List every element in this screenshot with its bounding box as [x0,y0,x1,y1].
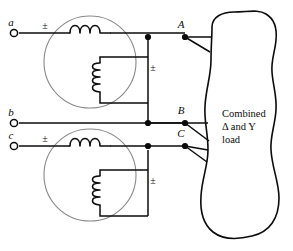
junction-dot-top-secondary-tap [145,34,151,40]
label-terminal-B: B [178,104,185,116]
label-terminal-b: b [8,106,14,118]
polarity-mark-secondary-top: ± [150,62,156,73]
top-primary-winding-icon [70,26,110,34]
circuit-diagram-canvas: a b c A B C ± ± ± ± Combined Δ and Y loa… [0,0,293,251]
polarity-mark-primary-bottom: ± [42,133,48,144]
circuit-figure: a b c A B C ± ± ± ± Combined Δ and Y loa… [0,0,293,251]
bottom-primary-winding-icon [70,139,110,147]
bottom-secondary-winding-icon [93,176,101,205]
terminal-b-node[interactable] [10,119,17,126]
label-terminal-a: a [8,16,14,28]
load-label-line-1: Combined [222,108,266,119]
polarity-mark-secondary-bottom: ± [150,175,156,186]
junction-dot-C [182,143,188,149]
wire-A-into-load-diagonal [185,37,210,52]
junction-dot-B-bus [145,120,151,126]
wire-top-secondary-loop [100,57,148,63]
load-label-line-2: Δ and Y [222,121,256,132]
junction-dot-B [182,120,188,126]
top-secondary-winding-icon [93,63,101,92]
junction-dot-A [182,34,188,40]
junction-dot-bottom-secondary-tap [145,143,151,149]
label-terminal-A: A [177,18,185,30]
terminal-a-node[interactable] [10,29,17,36]
label-terminal-C: C [177,127,185,139]
load-label-line-3: load [222,134,241,145]
wire-bottom-secondary-loop-top [100,170,148,176]
terminal-c-node[interactable] [10,142,17,149]
label-terminal-c: c [9,129,14,141]
polarity-mark-primary-top: ± [42,20,48,31]
